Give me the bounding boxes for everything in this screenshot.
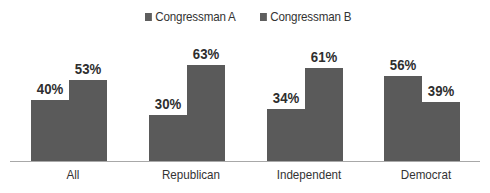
bar-chart-plot: 40%53%All30%63%Republican34%61%Independe…: [0, 0, 490, 193]
value-label: 40%: [32, 80, 67, 97]
bar-congressman-a-all: [31, 100, 69, 161]
bar-congressman-b-democrat: [422, 102, 460, 161]
category-label: Republican: [148, 167, 234, 182]
bar-congressman-b-all: [69, 80, 107, 161]
value-label: 39%: [423, 82, 458, 99]
value-label: 63%: [188, 45, 223, 62]
x-axis-line: [10, 161, 480, 162]
category-label: Independent: [266, 167, 352, 182]
category-label: All: [30, 167, 116, 182]
bar-congressman-b-independent: [305, 68, 343, 161]
bar-congressman-a-republican: [149, 115, 187, 161]
value-label: 34%: [268, 89, 303, 106]
value-label: 61%: [306, 48, 341, 65]
category-label: Democrat: [383, 167, 469, 182]
bar-congressman-b-republican: [187, 65, 225, 161]
value-label: 56%: [385, 56, 420, 73]
bar-congressman-a-independent: [267, 109, 305, 161]
value-label: 30%: [150, 95, 185, 112]
value-label: 53%: [70, 60, 105, 77]
bar-congressman-a-democrat: [384, 76, 422, 161]
